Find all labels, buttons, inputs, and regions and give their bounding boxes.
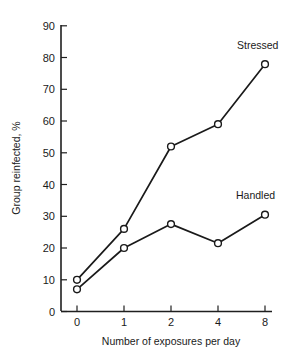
y-tick-label-10: 10 bbox=[43, 274, 55, 286]
y-tick-label-30: 30 bbox=[43, 210, 55, 222]
y-tick-label-20: 20 bbox=[43, 242, 55, 254]
y-axis-ticks bbox=[61, 26, 67, 312]
x-tick-label-2: 2 bbox=[168, 316, 174, 328]
x-axis-ticks bbox=[77, 306, 265, 312]
x-tick-label-8: 8 bbox=[262, 316, 268, 328]
x-tick-label-0: 0 bbox=[74, 316, 80, 328]
y-tick-label-80: 80 bbox=[43, 52, 55, 64]
stressed-point-2 bbox=[168, 143, 175, 150]
chart-page: 90 80 70 60 50 40 30 20 10 0 Group reinf… bbox=[0, 0, 295, 357]
x-tick-label-4: 4 bbox=[215, 316, 221, 328]
y-tick-label-50: 50 bbox=[43, 147, 55, 159]
y-axis-tick-labels: 90 80 70 60 50 40 30 20 10 0 bbox=[43, 20, 55, 318]
y-tick-label-60: 60 bbox=[43, 115, 55, 127]
stressed-point-0 bbox=[74, 276, 81, 283]
stressed-point-8 bbox=[262, 61, 269, 68]
y-tick-label-0: 0 bbox=[49, 306, 55, 318]
y-axis-group: 90 80 70 60 50 40 30 20 10 0 Group reinf… bbox=[10, 20, 67, 318]
line-chart: 90 80 70 60 50 40 30 20 10 0 Group reinf… bbox=[0, 0, 295, 357]
series-stressed: Stressed bbox=[74, 39, 279, 283]
handled-point-0 bbox=[74, 286, 81, 293]
stressed-series-label: Stressed bbox=[237, 39, 279, 51]
handled-point-1 bbox=[121, 245, 128, 252]
y-tick-label-70: 70 bbox=[43, 83, 55, 95]
x-tick-label-1: 1 bbox=[121, 316, 127, 328]
series-handled: Handled bbox=[74, 189, 276, 293]
x-axis-title: Number of exposures per day bbox=[102, 335, 241, 347]
y-tick-label-40: 40 bbox=[43, 179, 55, 191]
handled-point-8 bbox=[262, 211, 269, 218]
y-axis-title: Group reinfected, % bbox=[10, 121, 22, 214]
x-axis-group: 0 1 2 4 8 Number of exposures per day bbox=[61, 306, 272, 348]
stressed-line bbox=[77, 64, 265, 280]
x-axis-tick-labels: 0 1 2 4 8 bbox=[74, 316, 268, 328]
handled-point-4 bbox=[215, 240, 222, 247]
handled-point-2 bbox=[168, 221, 175, 228]
stressed-point-4 bbox=[215, 121, 222, 128]
y-tick-label-90: 90 bbox=[43, 20, 55, 32]
stressed-point-1 bbox=[121, 226, 128, 233]
handled-series-label: Handled bbox=[236, 189, 275, 201]
